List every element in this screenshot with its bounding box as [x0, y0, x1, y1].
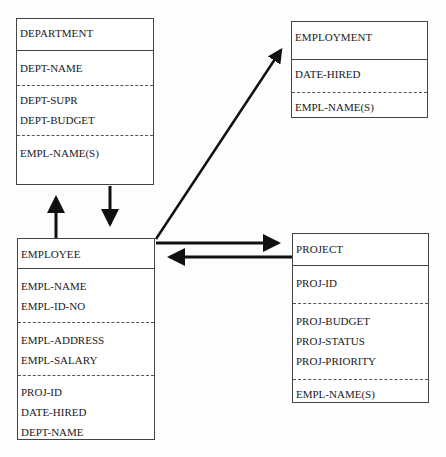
attribute: EMPL-NAME(S): [296, 384, 428, 404]
entity-section-key: PROJ-ID: [293, 266, 428, 303]
attribute: DATE-HIRED: [295, 64, 427, 84]
entity-title: EMPLOYMENT: [292, 22, 427, 60]
entity-section-key: DATE-HIRED: [292, 60, 427, 92]
attribute: EMPL-ADDRESS: [21, 330, 154, 350]
attribute: DEPT-NAME: [20, 58, 153, 78]
entity-project: PROJECT PROJ-ID PROJ-BUDGET PROJ-STATUS …: [292, 233, 429, 403]
attribute: DEPT-SUPR: [20, 90, 153, 110]
entity-section-attributes: DEPT-SUPR DEPT-BUDGET: [17, 85, 153, 135]
er-diagram-canvas: DEPARTMENT DEPT-NAME DEPT-SUPR DEPT-BUDG…: [0, 0, 446, 457]
attribute: EMPL-SALARY: [21, 350, 154, 370]
entity-section-key: EMPL-NAME EMPL-ID-NO: [18, 269, 154, 322]
attribute: EMPL-ID-NO: [21, 296, 154, 316]
entity-employee: EMPLOYEE EMPL-NAME EMPL-ID-NO EMPL-ADDRE…: [17, 238, 155, 440]
entity-section-links: EMPL-NAME(S): [293, 379, 428, 404]
attribute: DEPT-BUDGET: [20, 110, 153, 130]
entity-section-links: PROJ-ID DATE-HIRED DEPT-NAME: [18, 375, 154, 442]
attribute: PROJ-BUDGET: [296, 311, 428, 331]
attribute: PROJ-STATUS: [296, 331, 428, 351]
attribute: EMPL-NAME(S): [20, 143, 153, 163]
entity-section-links: EMPL-NAME(S): [17, 135, 153, 163]
entity-section-links: EMPL-NAME(S): [292, 92, 427, 117]
entity-title: EMPLOYEE: [18, 239, 154, 269]
attribute: EMPL-NAME(S): [295, 97, 427, 117]
entity-department: DEPARTMENT DEPT-NAME DEPT-SUPR DEPT-BUDG…: [16, 18, 154, 185]
entity-section-attributes: EMPL-ADDRESS EMPL-SALARY: [18, 322, 154, 375]
entity-title: DEPARTMENT: [17, 19, 153, 51]
entity-section-attributes: PROJ-BUDGET PROJ-STATUS PROJ-PRIORITY: [293, 303, 428, 379]
entity-title: PROJECT: [293, 234, 428, 266]
arrow-employee-to-employment: [156, 50, 281, 239]
attribute: PROJ-PRIORITY: [296, 351, 428, 371]
entity-section-key: DEPT-NAME: [17, 51, 153, 85]
attribute: PROJ-ID: [21, 382, 154, 402]
entity-employment: EMPLOYMENT DATE-HIRED EMPL-NAME(S): [291, 21, 428, 118]
attribute: DATE-HIRED: [21, 402, 154, 422]
attribute: PROJ-ID: [296, 273, 428, 293]
attribute: DEPT-NAME: [21, 422, 154, 442]
attribute: EMPL-NAME: [21, 276, 154, 296]
